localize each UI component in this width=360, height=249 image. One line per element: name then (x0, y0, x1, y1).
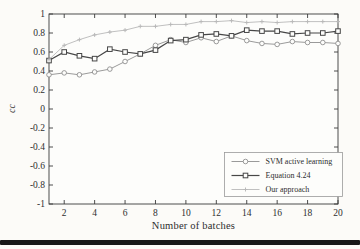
data-point-circle (108, 67, 113, 72)
data-point-circle (260, 41, 265, 46)
y-tick-label: -1 (37, 199, 45, 209)
data-point-circle (305, 40, 310, 45)
y-tick-label: 1 (40, 9, 45, 19)
data-point-square (153, 48, 158, 53)
y-tick-label: 0.6 (33, 47, 45, 57)
y-tick-label: 0.4 (33, 66, 45, 76)
data-point-circle (290, 39, 295, 44)
y-tick-label: 0.8 (33, 28, 45, 38)
data-point-square (168, 38, 173, 43)
data-point-square (123, 50, 128, 55)
data-point-circle (153, 43, 158, 48)
y-tick-label: 0.2 (33, 85, 45, 95)
data-point-square (214, 32, 219, 37)
x-tick-label: 2 (62, 208, 67, 218)
x-tick-label: 6 (123, 208, 128, 218)
x-tick-label: 12 (212, 208, 222, 218)
x-tick-label: 18 (303, 208, 313, 218)
page-divider-bar (0, 240, 360, 245)
data-point-square (275, 29, 280, 34)
data-point-square (62, 50, 67, 55)
data-point-square (260, 29, 265, 34)
y-tick-label: -0.2 (30, 123, 45, 133)
x-tick-label: 4 (92, 208, 97, 218)
x-axis-label: Number of batches (49, 220, 338, 231)
data-point-circle (77, 73, 82, 78)
x-tick-label: 16 (272, 208, 282, 218)
y-tick-label: -0.6 (30, 161, 45, 171)
data-point-circle (243, 159, 248, 164)
data-point-circle (320, 40, 325, 45)
data-point-circle (244, 38, 249, 43)
data-point-square (243, 173, 248, 178)
data-point-circle (275, 42, 280, 47)
data-point-square (77, 54, 82, 59)
page: 246810121416182010.80.60.40.20-0.2-0.4-0… (0, 0, 360, 249)
x-tick-label: 8 (153, 208, 158, 218)
data-point-square (199, 33, 204, 38)
data-point-circle (62, 71, 67, 76)
data-point-circle (92, 70, 97, 75)
data-point-square (92, 56, 97, 61)
data-point-square (184, 37, 189, 42)
data-point-square (320, 31, 325, 36)
data-point-square (229, 34, 234, 39)
x-tick-label: 20 (333, 208, 343, 218)
chart-area: 246810121416182010.80.60.40.20-0.2-0.4-0… (0, 0, 360, 238)
data-point-square (108, 47, 113, 52)
legend-item-label: Our approach (266, 185, 310, 194)
legend-item-label: SVM active learning (266, 157, 333, 166)
data-point-circle (214, 39, 219, 44)
chart-svg: 246810121416182010.80.60.40.20-0.2-0.4-0… (0, 0, 360, 238)
data-point-square (290, 32, 295, 37)
data-point-circle (47, 73, 52, 78)
data-point-circle (336, 41, 341, 46)
y-tick-label: 0 (40, 104, 45, 114)
x-tick-label: 10 (181, 208, 191, 218)
y-tick-label: -0.4 (30, 142, 45, 152)
y-tick-label: -0.8 (30, 180, 45, 190)
data-point-square (336, 29, 341, 34)
data-point-square (244, 28, 249, 33)
data-point-square (138, 52, 143, 57)
legend-item-label: Equation 4.24 (266, 171, 311, 180)
y-axis-label: cc (6, 97, 17, 121)
data-point-circle (123, 59, 128, 64)
data-point-square (305, 31, 310, 36)
x-tick-label: 14 (242, 208, 252, 218)
